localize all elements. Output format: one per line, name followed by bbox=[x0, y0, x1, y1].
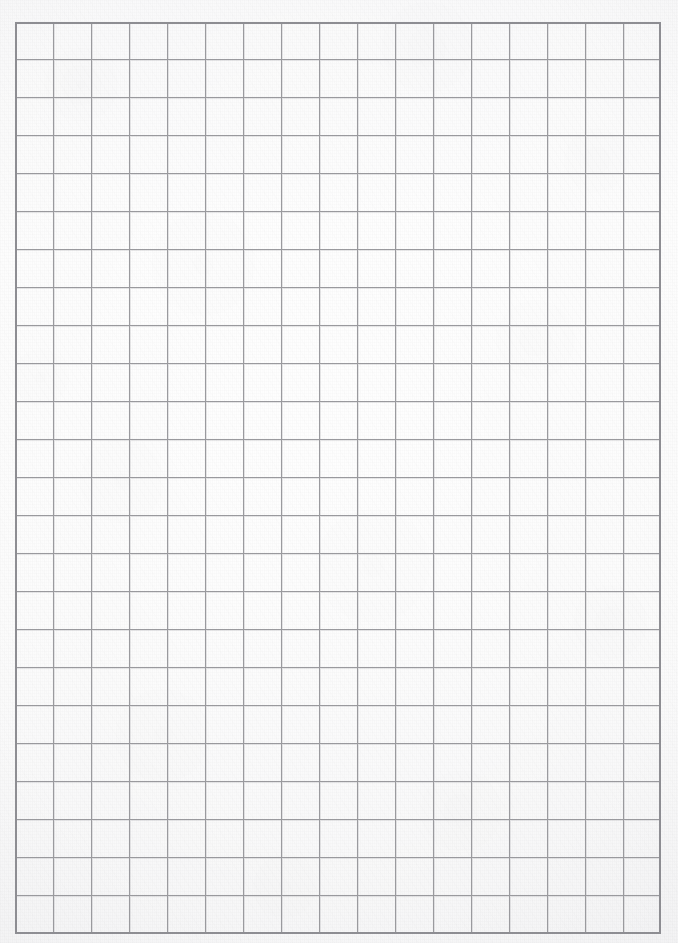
grid-outer-border bbox=[15, 22, 661, 934]
grid-bleed-through bbox=[15, 22, 661, 934]
graph-paper-grid bbox=[15, 22, 661, 934]
grid-rules bbox=[15, 22, 661, 934]
grid-paper-page bbox=[0, 0, 678, 943]
